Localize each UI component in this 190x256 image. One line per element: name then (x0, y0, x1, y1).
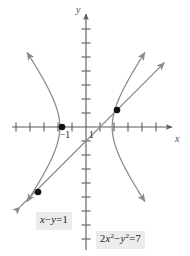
x-tick-label-one: 1 (89, 130, 94, 140)
hyp-eq-rhs: 7 (136, 233, 142, 244)
graph-figure: y x −1 1 x−y=1 2x2−y2=7 (0, 0, 190, 256)
hyperbola-branch-right-upper (112, 52, 145, 127)
point-lower-left-intersection (35, 189, 42, 196)
x-tick-label-negative-one: −1 (60, 130, 70, 140)
hyperbola-equation-label: 2x2−y2=7 (96, 231, 145, 249)
y-axis-label: y (76, 4, 80, 15)
point-upper-right-intersection (114, 107, 121, 114)
hyperbola-branch-left (27, 52, 60, 127)
line-eq-rhs: 1 (62, 214, 68, 225)
graph-canvas (0, 0, 190, 256)
hyperbola-branch-right-lower (112, 127, 145, 202)
hyperbola-branch-left-lower (27, 127, 60, 202)
line-equation-label: x−y=1 (36, 212, 72, 230)
x-axis-label: x (175, 133, 179, 144)
